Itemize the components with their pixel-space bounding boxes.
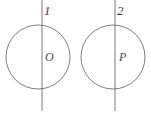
line-2-label: 2 xyxy=(117,4,124,17)
line-1-label: 1 xyxy=(44,4,51,17)
figure-background xyxy=(0,0,151,115)
geometry-figure: 1 2 O P xyxy=(0,0,151,115)
figure-canvas xyxy=(0,0,151,115)
circle-p-center-label: P xyxy=(119,51,126,63)
circle-o-center-label: O xyxy=(45,51,54,63)
